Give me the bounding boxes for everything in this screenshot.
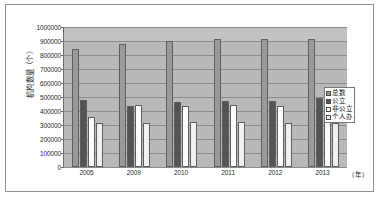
y-axis-tick-label: 100000 [40, 150, 61, 157]
bar-groups [64, 27, 347, 167]
chart-page: 机构数量（个） 10000009000008000007000006000005… [0, 0, 379, 197]
x-axis-tick-label: 2010 [157, 169, 204, 176]
plot-area: 1000000900000800000700000600000500000400… [63, 27, 347, 168]
y-axis-tick-label: 300000 [40, 122, 61, 129]
x-axis-tick-label: 2012 [252, 169, 299, 176]
y-axis-tick-label: 700000 [40, 66, 61, 73]
bar-chart: 机构数量（个） 10000009000008000007000006000005… [6, 5, 373, 191]
bar-group [158, 27, 205, 167]
chart-legend: 总数公立非公立个人办 [324, 87, 355, 123]
y-axis-tick-label: 600000 [40, 80, 61, 87]
x-axis-tick-label: 2009 [110, 169, 157, 176]
legend-swatch-icon [326, 115, 331, 120]
bar [214, 39, 221, 167]
bar [96, 123, 103, 167]
legend-swatch-icon [326, 107, 331, 112]
bar [285, 123, 292, 167]
legend-item-label: 个人办 [332, 113, 352, 121]
bar [277, 106, 284, 167]
legend-item-label: 公立 [332, 97, 346, 105]
bar [182, 106, 189, 167]
bar [119, 44, 126, 167]
bar [269, 101, 276, 167]
y-axis-title: 机构数量（个） [24, 28, 35, 118]
bar [166, 41, 173, 167]
bar-group [253, 27, 300, 167]
y-axis-tick-label: 900000 [40, 38, 61, 45]
y-axis-tick-label: 400000 [40, 108, 61, 115]
y-axis-tick-label: 500000 [40, 94, 61, 101]
gridline [64, 167, 347, 168]
x-axis-tick-label: 2013 [299, 169, 346, 176]
bar [80, 100, 87, 167]
legend-swatch-icon [326, 91, 331, 96]
bar-group [206, 27, 253, 167]
x-axis-tick-label: 2005 [63, 169, 110, 176]
chart-frame: 机构数量（个） 10000009000008000007000006000005… [5, 4, 374, 192]
bar [135, 105, 142, 167]
bar [190, 122, 197, 167]
bar [261, 39, 268, 167]
bar [143, 123, 150, 167]
y-axis-tick-mark [61, 167, 64, 168]
bar-group [111, 27, 158, 167]
legend-item-label: 非公立 [332, 105, 352, 113]
bar [174, 102, 181, 167]
bar [230, 105, 237, 167]
x-axis-ticks: 200520092010201120122013 [63, 169, 346, 176]
x-axis-tick-label: 2011 [205, 169, 252, 176]
bar [222, 101, 229, 167]
bar [72, 49, 79, 167]
legend-swatch-icon [326, 99, 331, 104]
bar [332, 123, 339, 167]
legend-item[interactable]: 非公立 [326, 105, 352, 113]
y-axis-tick-label: 1000000 [36, 24, 61, 31]
x-axis-unit-label: （年） [348, 169, 369, 179]
legend-item-label: 总数 [332, 89, 346, 97]
legend-item[interactable]: 个人办 [326, 113, 352, 121]
bar [88, 117, 95, 167]
bar-group [64, 27, 111, 167]
legend-item[interactable]: 公立 [326, 97, 352, 105]
bar [308, 39, 315, 167]
legend-item[interactable]: 总数 [326, 89, 352, 97]
bar [127, 106, 134, 167]
y-axis-tick-label: 200000 [40, 136, 61, 143]
bar [238, 122, 245, 167]
bar [316, 98, 323, 167]
y-axis-tick-label: 800000 [40, 52, 61, 59]
